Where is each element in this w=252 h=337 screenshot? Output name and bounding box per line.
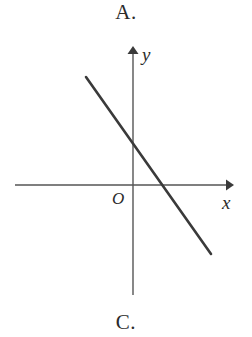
y-axis-label: y (140, 44, 151, 65)
linear-function-line (86, 77, 211, 254)
origin-label: O (112, 189, 124, 208)
choice-label-top: A. (0, 2, 252, 23)
x-axis-label: x (221, 192, 231, 213)
diagram-page: A. y x O C. (0, 0, 252, 337)
x-axis-arrowhead (226, 180, 234, 191)
x-axis-group (15, 180, 234, 191)
y-axis-group (128, 46, 139, 295)
y-axis-arrowhead (128, 46, 139, 54)
choice-label-bottom: C. (0, 312, 252, 333)
coordinate-plane-svg: y x O (0, 30, 252, 305)
coordinate-plane-figure: y x O (0, 30, 252, 305)
